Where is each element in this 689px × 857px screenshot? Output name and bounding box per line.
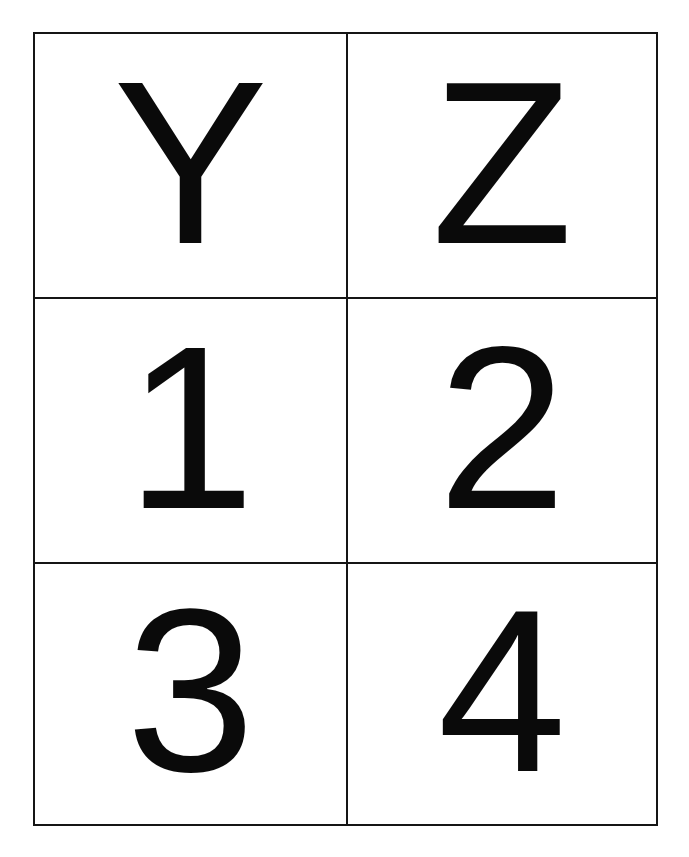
cell-glyph: 1	[126, 312, 255, 544]
cell-glyph: Y	[113, 47, 268, 279]
cell-glyph: 2	[437, 312, 566, 544]
card-grid: Y Z 1 2 3 4	[33, 32, 658, 826]
grid-cell-y: Y	[35, 34, 348, 299]
grid-cell-z: Z	[348, 34, 656, 299]
grid-cell-4: 4	[348, 564, 656, 824]
cell-glyph: Z	[431, 47, 573, 279]
grid-cell-1: 1	[35, 299, 348, 564]
cell-glyph: 4	[437, 575, 566, 807]
cell-glyph: 3	[126, 575, 255, 807]
page: Y Z 1 2 3 4	[0, 0, 689, 857]
grid-cell-3: 3	[35, 564, 348, 824]
grid-cell-2: 2	[348, 299, 656, 564]
